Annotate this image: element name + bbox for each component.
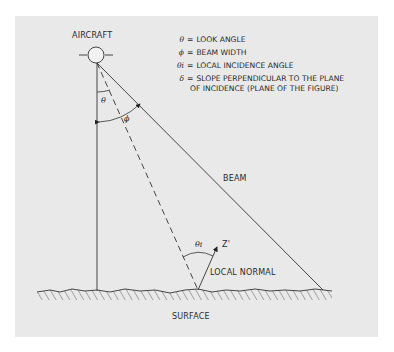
aircraft-icon xyxy=(79,47,113,63)
legend-item: θ = LOOK ANGLE xyxy=(172,33,344,46)
surface-label: SURFACE xyxy=(172,312,210,321)
legend-item: ϕ = BEAM WIDTH xyxy=(172,46,344,59)
theta-label: θ xyxy=(101,96,106,105)
z-prime-label: Z' xyxy=(222,240,230,249)
theta-i-label: θi xyxy=(195,240,202,249)
phi-label: ϕ xyxy=(124,114,129,123)
look-direction-line xyxy=(97,63,198,290)
surface-ground xyxy=(37,289,332,300)
legend-item: θi = LOCAL INCIDENCE ANGLE xyxy=(172,59,344,72)
theta-arc xyxy=(97,90,110,92)
legend-item-continuation: OF INCIDENCE (PLANE OF THE FIGURE) xyxy=(172,82,344,95)
local-normal-label: LOCAL NORMAL xyxy=(210,268,276,277)
theta-i-arc xyxy=(183,252,213,257)
beam-label: BEAM xyxy=(223,174,247,183)
beam-edge-line xyxy=(97,63,323,290)
aircraft-label: AIRCRAFT xyxy=(72,31,112,40)
legend: θ = LOOK ANGLE ϕ = BEAM WIDTH θi = LOCAL… xyxy=(172,33,344,95)
